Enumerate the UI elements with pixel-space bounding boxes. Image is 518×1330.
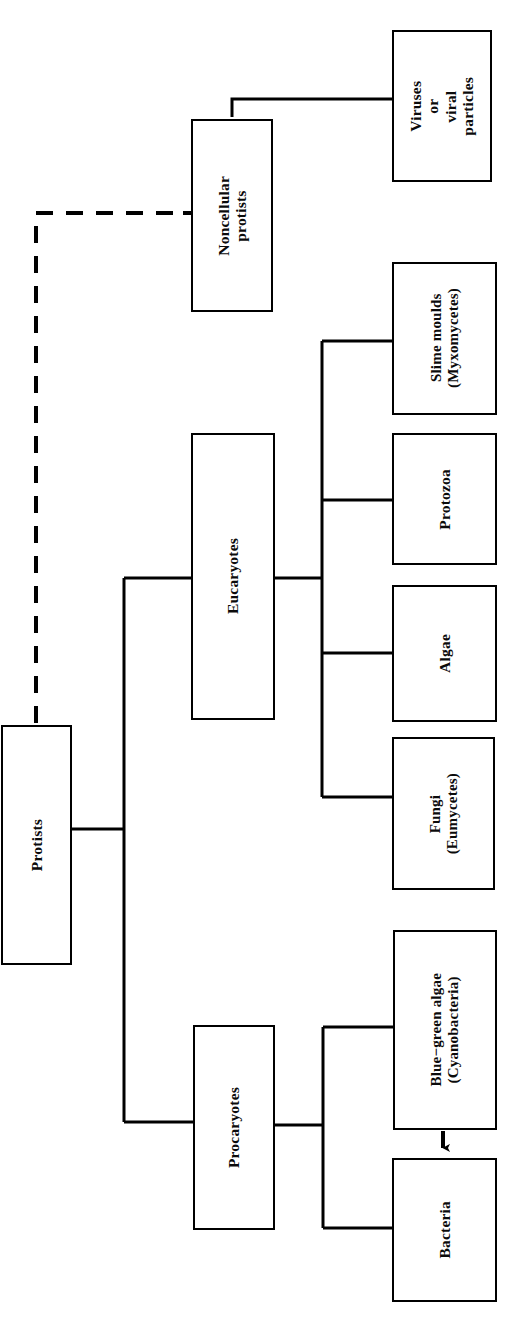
node-slime-moulds[interactable]: Slime moulds (Myxomycetes) bbox=[392, 262, 497, 415]
node-bacteria-label: Bacteria bbox=[436, 1201, 453, 1259]
node-viruses[interactable]: Viruses or viral particles bbox=[392, 30, 492, 182]
node-blue-green-algae[interactable]: Blue−green algae (Cyanobacteria) bbox=[393, 930, 497, 1130]
node-fungi-label: Fungi (Eumycetes) bbox=[427, 773, 461, 854]
edge-noncellular-protists-to-viruses bbox=[232, 99, 392, 117]
node-algae-label: Algae bbox=[436, 634, 453, 673]
node-protists-label: Protists bbox=[28, 819, 45, 871]
node-eucaryotes-label: Eucaryotes bbox=[224, 538, 241, 614]
node-blue-green-algae-label: Blue−green algae (Cyanobacteria) bbox=[428, 973, 462, 1087]
node-viruses-label: Viruses or viral particles bbox=[407, 77, 476, 136]
edge-procaryotes-branch bbox=[274, 1027, 393, 1228]
edge-protists-to-noncellular-protists bbox=[36, 213, 196, 723]
node-protozoa[interactable]: Protozoa bbox=[392, 433, 497, 565]
node-eucaryotes[interactable]: Eucaryotes bbox=[191, 433, 275, 720]
node-protozoa-label: Protozoa bbox=[436, 469, 453, 530]
node-noncellular-protists-label: Noncellular protists bbox=[215, 176, 250, 256]
node-algae[interactable]: Algae bbox=[392, 585, 497, 722]
node-protists[interactable]: Protists bbox=[1, 725, 72, 965]
node-slime-moulds-label: Slime moulds (Myxomycetes) bbox=[428, 288, 462, 388]
node-fungi[interactable]: Fungi (Eumycetes) bbox=[392, 737, 495, 890]
protists-classification-diagram: Protists Noncellular protists Eucaryotes… bbox=[0, 0, 518, 1330]
node-procaryotes-label: Procaryotes bbox=[225, 1087, 242, 1168]
node-bacteria[interactable]: Bacteria bbox=[392, 1158, 497, 1302]
node-noncellular-protists[interactable]: Noncellular protists bbox=[191, 119, 273, 312]
edge-eucaryotes-branch bbox=[274, 341, 392, 797]
node-procaryotes[interactable]: Procaryotes bbox=[193, 1025, 275, 1230]
edge-protists-trunk bbox=[71, 578, 124, 1122]
